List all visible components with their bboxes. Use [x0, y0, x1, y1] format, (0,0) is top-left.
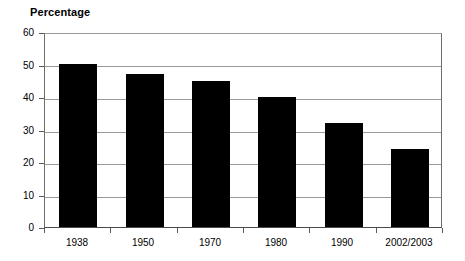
bar [192, 81, 230, 227]
gridline [45, 132, 441, 133]
bar [391, 149, 429, 227]
x-axis-tick [177, 228, 178, 233]
x-axis-label: 2002/2003 [376, 237, 442, 249]
bar [258, 97, 296, 227]
plot-area [44, 33, 442, 228]
gridline [45, 66, 441, 67]
y-axis-tick [39, 33, 44, 34]
x-axis-label: 1950 [110, 237, 176, 249]
x-axis-label: 1990 [309, 237, 375, 249]
gridline [45, 99, 441, 100]
y-axis-tick [39, 196, 44, 197]
y-axis-label: 0 [8, 223, 34, 233]
y-axis-label: 20 [8, 158, 34, 168]
bar [59, 64, 97, 227]
bar-chart: Percentage 0102030405060 193819501970198… [0, 0, 465, 261]
x-axis-label: 1938 [44, 237, 110, 249]
y-axis-tick [39, 131, 44, 132]
gridline [45, 164, 441, 165]
bar [126, 74, 164, 227]
x-axis-tick [442, 228, 443, 233]
x-axis-tick [309, 228, 310, 233]
x-axis-label: 1980 [243, 237, 309, 249]
x-axis-tick [110, 228, 111, 233]
y-axis-label: 40 [8, 93, 34, 103]
x-axis-tick [243, 228, 244, 233]
chart-title: Percentage [30, 6, 90, 18]
y-axis-tick [39, 98, 44, 99]
x-axis-tick [44, 228, 45, 233]
y-axis-label: 30 [8, 126, 34, 136]
y-axis-tick [39, 66, 44, 67]
y-axis-label: 60 [8, 28, 34, 38]
x-axis-label: 1970 [177, 237, 243, 249]
y-axis-label: 50 [8, 61, 34, 71]
bar [325, 123, 363, 227]
y-axis-tick [39, 163, 44, 164]
gridline [45, 197, 441, 198]
y-axis-label: 10 [8, 191, 34, 201]
x-axis-tick [376, 228, 377, 233]
